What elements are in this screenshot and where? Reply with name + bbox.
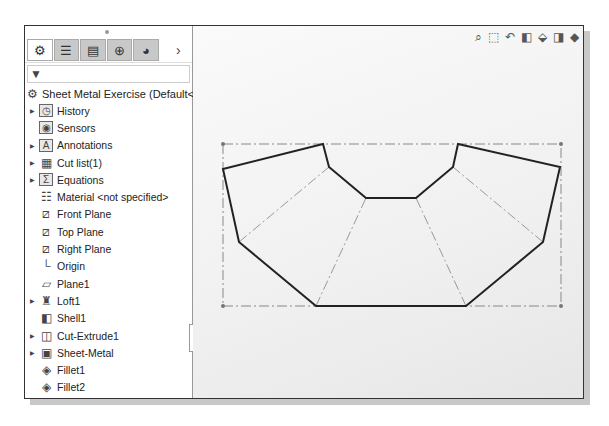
dimxpert-manager-icon: ⊕ [114,43,125,58]
annotations-icon: A [39,139,53,152]
tree-item-label: Right Plane [57,243,111,255]
tree-item-material[interactable]: ☷Material <not specified> [25,188,192,205]
tab-feature-manager[interactable]: ⚙ [27,39,53,61]
tree-item-history[interactable]: ▶◷History [25,102,192,119]
manager-tabs: ⚙ ☰ ▤ ⊕ ◕ › [25,38,192,63]
tree-item-label: Cut-Extrude1 [57,330,119,342]
expand-arrow-icon[interactable]: ▶ [25,107,39,114]
tree-item-top-plane[interactable]: ⧄Top Plane [25,223,192,240]
expand-arrow-icon[interactable]: ▶ [25,332,39,339]
tree-item-label: Fillet1 [57,364,85,376]
tab-property-manager[interactable]: ☰ [54,39,80,61]
tree-item-label: Shell1 [57,312,86,324]
configuration-manager-icon: ▤ [87,43,99,58]
more-tabs-button[interactable]: › [166,39,191,61]
shell-icon: ◧ [39,312,53,325]
tree-item-origin[interactable]: └Origin [25,258,192,275]
tree-item-label: Sensors [57,122,96,134]
tab-dimxpert-manager[interactable]: ⊕ [107,39,133,61]
cut-list-icon: ▦ [39,156,53,169]
origin-icon: └ [39,260,53,273]
tree-filter[interactable]: ▼ [27,65,190,83]
plane-icon: ▱ [39,277,53,290]
flat-outline [223,144,560,306]
part-icon: ⚙ [27,87,38,100]
panel-grip[interactable] [25,26,192,38]
tree-item-convert-solid1[interactable]: ▶◪Convert-Solid1 [25,396,192,399]
tree-item-label: Sheet-Metal [57,347,114,359]
cut-extrude-icon: ◫ [39,329,53,342]
tree-item-equations[interactable]: ▶ΣEquations [25,171,192,188]
tree-item-label: Loft1 [57,295,80,307]
material-icon: ☷ [39,191,53,204]
convert-solid-icon: ◪ [39,398,53,399]
tree-item-label: Equations [57,174,104,186]
expand-arrow-icon[interactable]: ▶ [25,297,39,304]
tree-item-shell1[interactable]: ◧Shell1 [25,310,192,327]
expand-arrow-icon[interactable]: ▶ [25,176,39,183]
tree-item-front-plane[interactable]: ⧄Front Plane [25,206,192,223]
tree-item-fillet2[interactable]: ◈Fillet2 [25,379,192,396]
grip-dot [105,30,109,34]
tree-item-label: Cut list(1) [57,157,102,169]
tree-item-label: Top Plane [57,226,104,238]
fillet-icon: ◈ [39,381,53,394]
tab-display-manager[interactable]: ◕ [133,39,159,61]
plane-icon: ⧄ [39,243,53,256]
feature-manager-icon: ⚙ [34,43,46,58]
sheet-metal-icon: ▣ [39,346,53,359]
loft-icon: ♜ [39,294,53,307]
plane-icon: ⧄ [39,208,53,221]
tab-configuration-manager[interactable]: ▤ [80,39,106,61]
plane-icon: ⧄ [39,225,53,238]
sensors-icon: ◉ [39,121,53,134]
bend-lines [239,167,543,306]
equations-icon: Σ [39,173,53,186]
flat-pattern-drawing [193,26,583,398]
tree-item-label: Origin [57,260,85,272]
tree-root[interactable]: ⚙Sheet Metal Exercise (Default<<Default [25,85,192,102]
tree-item-label: Annotations [57,139,112,151]
fillet-icon: ◈ [39,364,53,377]
tree-item-sheet-metal[interactable]: ▶▣Sheet-Metal [25,344,192,361]
expand-arrow-icon[interactable]: ▶ [25,349,39,356]
feature-manager-panel: ⚙ ☰ ▤ ⊕ ◕ › ▼ ⚙Sheet Metal Exercise (Def… [25,26,193,398]
chevron-right-icon: › [176,42,181,58]
tree-item-label: Plane1 [57,278,90,290]
tree-item-sensors[interactable]: ◉Sensors [25,119,192,136]
display-manager-icon: ◕ [142,43,150,58]
property-manager-icon: ☰ [60,43,72,58]
tree-item-cut-list[interactable]: ▶▦Cut list(1) [25,154,192,171]
expand-arrow-icon[interactable]: ▶ [25,142,39,149]
tree-item-plane1[interactable]: ▱Plane1 [25,275,192,292]
tree-item-cut-extrude1[interactable]: ▶◫Cut-Extrude1 [25,327,192,344]
bounding-box [223,144,561,306]
filter-icon: ▼ [30,67,42,81]
history-icon: ◷ [39,104,53,117]
feature-tree: ▶◷History ◉Sensors ▶AAnnotations ▶▦Cut l… [25,102,192,399]
solidworks-window: ⚙ ☰ ▤ ⊕ ◕ › ▼ ⚙Sheet Metal Exercise (Def… [24,25,584,399]
tree-item-right-plane[interactable]: ⧄Right Plane [25,240,192,257]
tree-item-annotations[interactable]: ▶AAnnotations [25,137,192,154]
tree-item-loft1[interactable]: ▶♜Loft1 [25,292,192,309]
expand-arrow-icon[interactable]: ▶ [25,159,39,166]
tree-item-label: History [57,105,90,117]
graphics-area[interactable]: ⌕ ⬚ ↶ ◧ ⬙ ◨ ◆ [193,26,583,398]
tree-item-fillet1[interactable]: ◈Fillet1 [25,361,192,378]
tree-item-label: Front Plane [57,208,111,220]
tree-item-label: Material <not specified> [57,191,168,203]
tree-item-label: Fillet2 [57,381,85,393]
